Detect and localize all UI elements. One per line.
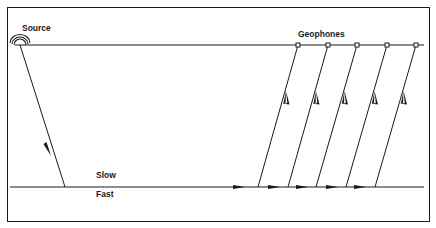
upgoing-rays xyxy=(258,45,416,187)
source-label: Source xyxy=(22,23,51,33)
diagram-frame xyxy=(8,8,430,222)
geophones-label: Geophones xyxy=(298,29,345,39)
incident-ray-arrow-icon xyxy=(44,142,52,156)
incident-ray xyxy=(20,45,65,187)
geophone-2 xyxy=(326,43,330,47)
slow-layer-label: Slow xyxy=(96,170,116,180)
source-wave-icon xyxy=(10,35,30,46)
geophone-1 xyxy=(296,43,300,47)
geophone-3 xyxy=(355,43,359,47)
geophone-5 xyxy=(414,43,418,47)
geophone-4 xyxy=(385,43,389,47)
fast-layer-label: Fast xyxy=(96,189,114,199)
refraction-diagram: Source Geophones Slow Fast xyxy=(0,0,436,228)
upgoing-ray-arrow-icons xyxy=(283,91,407,105)
